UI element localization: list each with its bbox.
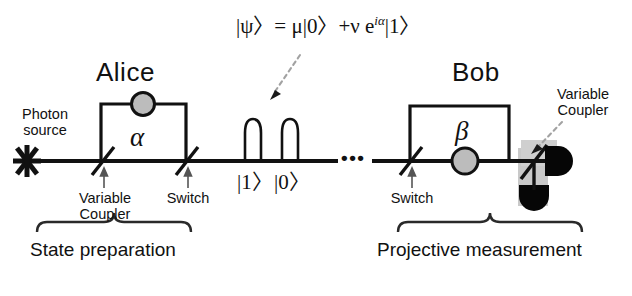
bob-title: Bob — [452, 58, 500, 87]
channel-ellipsis: ••• — [341, 147, 365, 168]
photon-source-icon — [13, 145, 41, 177]
alice-phase-shifter — [132, 93, 155, 116]
state-formula-tail: |1〉 — [385, 14, 421, 38]
alice-variable-coupler-arrow — [101, 168, 108, 188]
state-formula-exponent: iα — [374, 13, 384, 28]
projective-measurement-label: Projective measurement — [377, 239, 582, 260]
detector-horizontal — [545, 146, 573, 176]
alice-phase-symbol: α — [130, 122, 144, 152]
projective-measurement-brace — [398, 213, 582, 232]
bob-phase-shifter — [452, 148, 478, 174]
state-formula-arrow — [270, 55, 300, 100]
bob-switch-arrow — [409, 168, 416, 188]
pulse-ket-zero-shape — [282, 119, 298, 161]
state-formula-main: |ψ〉= μ|0〉+ν e — [236, 14, 374, 38]
state-formula: |ψ〉= μ|0〉+ν eiα|1〉 — [236, 14, 420, 39]
pulse-ket-one-shape — [245, 119, 261, 161]
photon-source-label: Photon source — [6, 106, 84, 138]
state-preparation-label: State preparation — [30, 239, 176, 260]
bob-switch-label: Switch — [382, 190, 442, 206]
alice-switch-arrow — [185, 168, 192, 188]
alice-switch-label: Switch — [158, 190, 218, 206]
alice-title: Alice — [96, 58, 155, 87]
bob-phase-symbol: β — [455, 116, 468, 146]
pulse-ket-zero-label: |0〉 — [274, 171, 310, 195]
quantum-communication-diagram: |ψ〉= μ|0〉+ν eiα|1〉 Alice Bob Photon sour… — [0, 0, 632, 296]
alice-variable-coupler-label: Variable Coupler — [62, 190, 148, 222]
bob-variable-coupler-label: Variable Coupler — [540, 86, 626, 118]
pulse-ket-one-label: |1〉 — [237, 171, 273, 195]
